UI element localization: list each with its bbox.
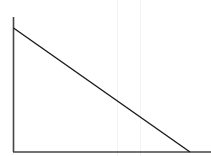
data-line — [14, 28, 191, 152]
line-chart — [0, 0, 211, 156]
